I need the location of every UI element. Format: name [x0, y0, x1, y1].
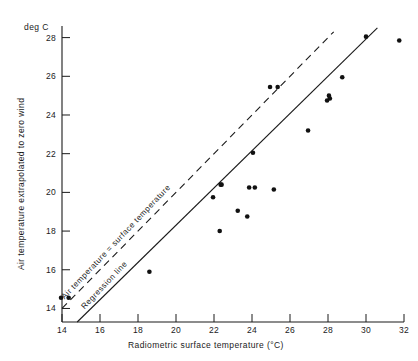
data-point [217, 229, 222, 234]
data-point [251, 150, 256, 155]
scatter-plot-figure: deg C Air temperature extrapolated to ze… [0, 0, 418, 361]
x-tick-label: 20 [164, 325, 188, 335]
y-axis-title: Air temperature extrapolated to zero win… [16, 98, 26, 270]
y-tick-label: 26 [32, 71, 56, 81]
x-tick-label: 14 [50, 325, 74, 335]
regression-line [77, 28, 377, 322]
data-point [306, 128, 311, 133]
x-tick-label: 16 [88, 325, 112, 335]
x-axis-title: Radiometric surface temperature (°C) [128, 340, 284, 350]
data-point [235, 208, 240, 213]
y-axis-unit-label: deg C [24, 22, 49, 32]
data-point [245, 214, 250, 219]
identity-line [62, 32, 334, 309]
data-point [328, 96, 333, 101]
data-point [247, 185, 252, 190]
y-tick-label: 16 [32, 265, 56, 275]
y-tick-label: 24 [32, 110, 56, 120]
y-tick-label: 28 [32, 33, 56, 43]
data-point [253, 185, 258, 190]
data-point [272, 187, 277, 192]
x-tick-label: 22 [202, 325, 226, 335]
data-point [219, 182, 224, 187]
y-tick-label: 20 [32, 187, 56, 197]
data-point [275, 85, 280, 90]
plot-canvas [0, 0, 418, 361]
x-tick-label: 30 [354, 325, 378, 335]
x-tick-label: 24 [240, 325, 264, 335]
y-tick-label: 18 [32, 226, 56, 236]
y-axis-ticks [62, 38, 70, 309]
x-tick-label: 26 [278, 325, 302, 335]
x-tick-label: 28 [316, 325, 340, 335]
data-point [397, 38, 402, 43]
data-point [268, 85, 273, 90]
data-point [364, 34, 369, 39]
x-axis-ticks [62, 314, 404, 322]
y-tick-label: 22 [32, 149, 56, 159]
x-tick-label: 32 [392, 325, 416, 335]
data-point [147, 269, 152, 274]
data-point-markers [59, 34, 402, 300]
x-tick-label: 18 [126, 325, 150, 335]
data-point [211, 195, 216, 200]
data-point [340, 75, 345, 80]
y-tick-label: 14 [32, 303, 56, 313]
